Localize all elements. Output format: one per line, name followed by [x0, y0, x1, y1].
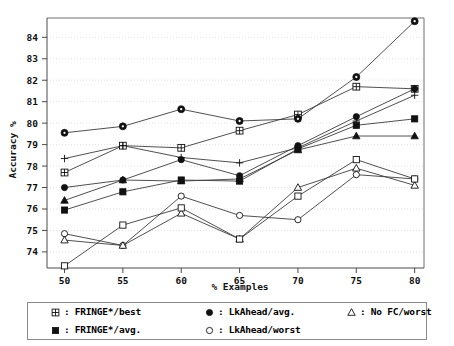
y-tick-label: 74 [27, 246, 39, 257]
series-lines [65, 21, 415, 266]
legend-marker-filled-circle [206, 309, 212, 315]
y-tick-label: 77 [27, 182, 38, 193]
legend-label: FRINGE*/best [75, 307, 141, 317]
legend-symbol-crossed-square [50, 307, 61, 318]
y-tick-label: 76 [27, 203, 39, 214]
marker-open-square [178, 205, 184, 211]
marker-filled-square [120, 189, 126, 195]
series-line [65, 136, 415, 200]
marker-open-square [412, 176, 418, 182]
chart-figure: 505560657075807475767778798081828384 Acc… [0, 0, 454, 346]
axis-tick-labels: 505560657075807475767778798081828384 [27, 32, 421, 286]
x-tick-label: 80 [409, 275, 421, 286]
y-axis-title: Accuracy % [7, 121, 18, 178]
marker-open-triangle [353, 164, 360, 171]
chart-legend: :FRINGE*/best:LkAhead/avg.:No FC/worst:F… [27, 302, 427, 340]
y-tick-label: 81 [27, 96, 39, 107]
legend-entry: :FRINGE*/avg. [50, 325, 204, 336]
legend-colon: : [64, 307, 70, 317]
y-axis-ticks [42, 37, 47, 252]
chart-plot-area: 505560657075807475767778798081828384 Acc… [0, 0, 454, 346]
legend-label: FRINGE*/avg. [75, 325, 141, 335]
x-axis-title: % Examples [211, 281, 268, 292]
marker-circle-dot-center [180, 108, 182, 110]
legend-label: LkAhead/avg. [229, 307, 295, 317]
legend-marker-open-triangle [348, 308, 355, 315]
x-tick-label: 55 [117, 275, 129, 286]
marker-filled-square [61, 207, 67, 213]
marker-open-square [120, 222, 126, 228]
legend-marker-filled-square [52, 327, 58, 333]
legend-colon: : [218, 325, 224, 335]
marker-open-circle [178, 193, 184, 199]
x-tick-label: 75 [351, 275, 363, 286]
marker-filled-circle [412, 86, 418, 92]
y-tick-label: 79 [27, 139, 39, 150]
y-tick-label: 78 [27, 161, 39, 172]
legend-symbol-filled-circle [204, 307, 215, 318]
marker-open-circle [353, 172, 359, 178]
marker-circle-dot-center [63, 132, 65, 134]
marker-open-square [236, 236, 242, 242]
marker-circle-dot-center [355, 76, 357, 78]
marker-circle-dot-center [122, 125, 124, 127]
legend-colon: : [360, 307, 366, 317]
gridlines [47, 37, 424, 252]
x-tick-label: 50 [59, 275, 71, 286]
legend-symbol-open-circle [204, 325, 215, 336]
y-tick-label: 83 [27, 53, 39, 64]
marker-open-square [61, 263, 67, 269]
marker-filled-square [412, 116, 418, 122]
x-axis-ticks [65, 268, 415, 273]
marker-circle-dot-center [297, 118, 299, 120]
x-tick-label: 60 [175, 275, 187, 286]
legend-grid: :FRINGE*/best:LkAhead/avg.:No FC/worst:F… [28, 303, 426, 339]
legend-entry: :No FC/worst [346, 307, 450, 318]
legend-colon: : [64, 325, 70, 335]
y-tick-label: 82 [27, 75, 38, 86]
marker-filled-circle [61, 184, 67, 190]
marker-open-circle [295, 217, 301, 223]
legend-symbol-filled-square [50, 325, 61, 336]
legend-entry: :LkAhead/worst [204, 325, 346, 336]
marker-filled-triangle [353, 132, 360, 139]
marker-open-triangle [61, 236, 68, 243]
marker-filled-triangle [411, 132, 418, 139]
marker-open-square [295, 193, 301, 199]
marker-circle-dot-center [238, 120, 240, 122]
legend-symbol-open-triangle [346, 307, 357, 318]
y-tick-label: 75 [27, 225, 39, 236]
series-line [65, 21, 415, 133]
legend-label: LkAhead/worst [229, 325, 301, 335]
legend-entry: :FRINGE*/best [50, 307, 204, 318]
marker-open-circle [236, 212, 242, 218]
x-tick-label: 70 [292, 275, 304, 286]
y-tick-label: 80 [27, 118, 39, 129]
y-tick-label: 84 [27, 32, 39, 43]
legend-label: No FC/worst [371, 307, 432, 317]
legend-colon: : [218, 307, 224, 317]
marker-circle-dot-center [414, 20, 416, 22]
plot-frame [47, 18, 424, 268]
legend-entry: :LkAhead/avg. [204, 307, 346, 318]
legend-marker-open-circle [206, 327, 212, 333]
marker-open-square [353, 157, 359, 163]
